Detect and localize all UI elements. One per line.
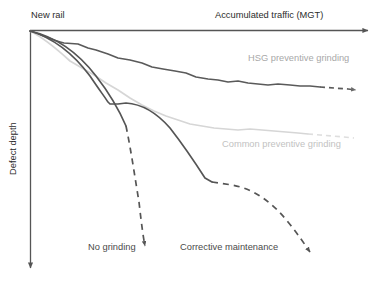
curve-common-preventive-grinding-dashed — [308, 134, 354, 138]
new-rail-label: New rail — [31, 11, 65, 20]
curve-corrective-maintenance — [30, 31, 212, 182]
label-hsg-preventive-grinding: HSG preventive grinding — [248, 54, 349, 63]
label-corrective-maintenance: Corrective maintenance — [180, 243, 278, 252]
label-no-grinding: No grinding — [88, 243, 136, 252]
curve-hsg-preventive-grinding-dashed — [320, 87, 356, 90]
x-axis-title: Accumulated traffic (MGT) — [215, 11, 323, 20]
label-common-preventive-grinding: Common preventive grinding — [222, 140, 341, 149]
rail-degradation-figure: New rail Accumulated traffic (MGT) Defec… — [0, 0, 385, 284]
curve-common-preventive-grinding — [30, 31, 308, 134]
curve-no-grinding — [30, 31, 126, 126]
curve-no-grinding-dashed — [126, 126, 145, 246]
y-axis-title: Defect depth — [9, 114, 18, 184]
